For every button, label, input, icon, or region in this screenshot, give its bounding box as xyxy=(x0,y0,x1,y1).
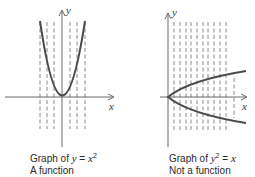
left-caption-exponent: 2 xyxy=(93,152,97,159)
right-y-axis-label: y xyxy=(172,7,177,18)
right-caption-equation: Graph of y2 = x xyxy=(169,152,236,165)
right-x-axis-label: x xyxy=(242,101,247,112)
right-caption-rhs: x xyxy=(231,152,236,164)
right-caption-verdict: Not a function xyxy=(169,165,236,177)
left-graph xyxy=(5,10,114,147)
left-caption-equation: Graph of y = x2 xyxy=(30,152,97,165)
left-caption-prefix: Graph of xyxy=(30,153,72,164)
left-y-axis-label: y xyxy=(66,5,71,16)
left-caption-verdict: A function xyxy=(30,165,97,177)
left-caption-eq: = xyxy=(77,153,88,164)
vertical-line-test-figure xyxy=(0,0,255,177)
left-caption: Graph of y = x2 A function xyxy=(30,152,97,177)
left-x-axis-label: x xyxy=(109,101,114,112)
right-caption-prefix: Graph of xyxy=(169,153,211,164)
right-caption-eq: = xyxy=(220,153,231,164)
right-caption: Graph of y2 = x Not a function xyxy=(169,152,236,177)
right-graph xyxy=(160,13,247,147)
